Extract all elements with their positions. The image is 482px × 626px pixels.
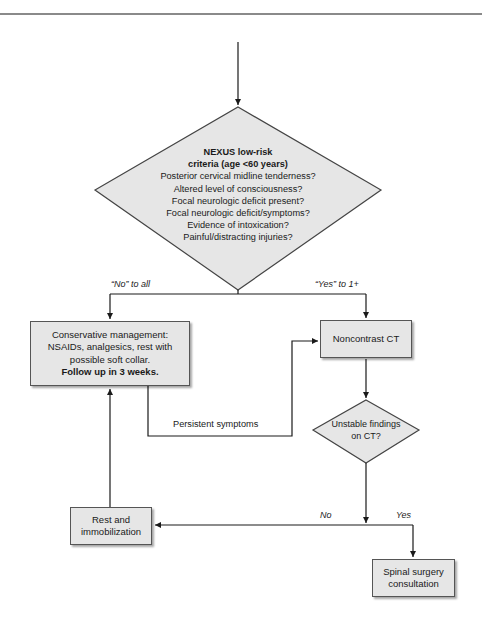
noncontrast-ct-box: Noncontrast CT [320,320,412,358]
no-label: No [320,510,332,520]
yes-label: Yes [396,510,411,520]
yes-to-one-label: “Yes” to 1+ [315,279,359,289]
spinal-surgery-box: Spinal surgery consultation [372,559,455,597]
conservative-line: Conservative management: [52,329,168,342]
unstable-line: on CT? [316,430,416,442]
conservative-management-box: Conservative management: NSAIDs, analges… [30,321,190,386]
unstable-line: Unstable findings [316,418,416,430]
follow-up-line: Follow up in 3 weeks. [61,366,158,379]
rest-immobilization-box: Rest and immobilization [70,507,152,545]
nexus-question: Posterior cervical midline tenderness? [120,170,356,182]
nexus-title-line-2: criteria (age <60 years) [120,158,356,170]
persistent-symptoms-label: Persistent symptoms [173,419,258,429]
nexus-question: Focal neurologic deficit/symptoms? [120,207,356,219]
nexus-question: Painful/distracting injuries? [120,231,356,243]
ct-label: Noncontrast CT [333,333,400,346]
conservative-line: possible soft collar. [70,354,150,367]
rest-line: Rest and [92,514,130,527]
nexus-decision: NEXUS low-risk criteria (age <60 years) … [120,146,356,244]
unstable-findings-decision: Unstable findings on CT? [316,418,416,442]
nexus-title-line-1: NEXUS low-risk [120,146,356,158]
spinal-line: consultation [388,578,439,591]
nexus-question: Evidence of intoxication? [120,219,356,231]
nexus-question: Altered level of consciousness? [120,183,356,195]
spinal-line: Spinal surgery [383,566,444,579]
conservative-line: NSAIDs, analgesics, rest with [48,341,173,354]
rest-line: immobilization [81,526,141,539]
no-to-all-label: “No” to all [111,279,150,289]
nexus-question: Focal neurologic deficit present? [120,195,356,207]
